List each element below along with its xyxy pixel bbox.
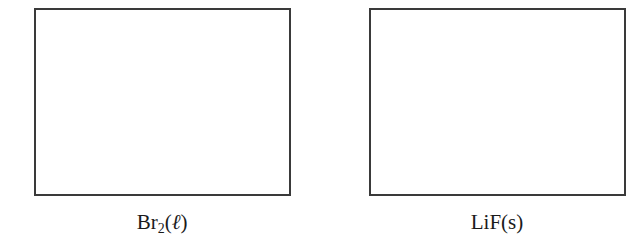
formula-base: Br — [137, 210, 158, 234]
br2-liquid-drawing-box — [34, 8, 291, 196]
phase-paren-close: ) — [180, 210, 187, 234]
lif-solid-label: LiF(s) — [397, 210, 597, 235]
phase-paren-open: ( — [165, 210, 172, 234]
formula-subscript: 2 — [158, 221, 165, 236]
br2-liquid-label: Br2(ℓ) — [62, 210, 262, 237]
lif-solid-drawing-box — [369, 8, 626, 196]
